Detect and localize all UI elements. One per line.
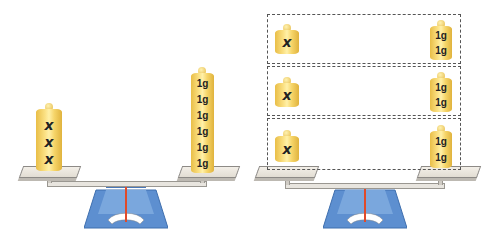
x-label: x (36, 134, 62, 150)
x-weight-stack: x x x (36, 103, 62, 171)
gram-label: 1g (430, 30, 452, 41)
gram-label: 1g (430, 45, 452, 56)
weight-body: x x x (36, 109, 62, 171)
weight-body: 1g 1g (430, 26, 452, 60)
gram-label: 1g (430, 136, 452, 147)
gram-weight-pair: 1g 1g (430, 125, 452, 168)
weight-body: x (275, 136, 299, 162)
weight-body: 1g 1g (430, 78, 452, 112)
left-balance-scale: x x x 1g 1g 1g 1g 1g 1g (0, 0, 245, 242)
x-label: x (36, 151, 62, 167)
beam (47, 181, 207, 187)
scale-base-icon (323, 184, 407, 230)
x-label: x (36, 117, 62, 133)
weight-body: x (275, 30, 299, 54)
x-label: x (275, 34, 299, 50)
right-balance-scale: x 1g 1g x 1g 1g x 1g 1g (245, 0, 491, 242)
x-label: x (275, 141, 299, 157)
weight-body: x (275, 83, 299, 107)
gram-label: 1g (430, 82, 452, 93)
gram-label: 1g (191, 158, 214, 169)
gram-label: 1g (430, 152, 452, 163)
gram-label: 1g (191, 78, 214, 89)
weight-body: 1g 1g 1g 1g 1g 1g (191, 73, 214, 173)
gram-label: 1g (191, 110, 214, 121)
gram-weight-pair: 1g 1g (430, 20, 452, 60)
gram-label: 1g (191, 142, 214, 153)
gram-weight-pair: 1g 1g (430, 72, 452, 112)
scale-base-icon (84, 184, 168, 230)
gram-label: 1g (191, 94, 214, 105)
gram-weight-stack: 1g 1g 1g 1g 1g 1g (191, 67, 214, 173)
x-weight: x (275, 24, 299, 54)
weight-body: 1g 1g (430, 131, 452, 168)
x-label: x (275, 87, 299, 103)
gram-label: 1g (430, 97, 452, 108)
gram-label: 1g (191, 126, 214, 137)
x-weight: x (275, 130, 299, 162)
beam (285, 183, 445, 189)
x-weight: x (275, 77, 299, 107)
